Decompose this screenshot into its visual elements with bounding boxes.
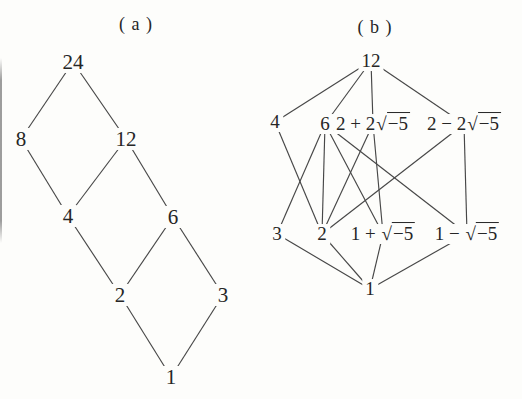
- scan-page-edge-artifact: [0, 58, 2, 243]
- scanned-figure-page: ( a ) 2481246231 ( b ) 12462 + 2√−52 − 2…: [0, 0, 522, 399]
- node-b-1mr: 1 − √−5: [432, 224, 502, 244]
- radical-sign: √: [375, 113, 386, 134]
- node-b-2: 2: [314, 224, 330, 244]
- node-b-12: 12: [359, 51, 384, 71]
- radicand: −5: [387, 112, 410, 134]
- node-b-3: 3: [269, 224, 285, 244]
- node-b-6: 6: [317, 114, 333, 134]
- figure-b-caption: ( b ): [358, 17, 393, 38]
- node-b-4: 4: [267, 112, 283, 132]
- radical-sign: √: [465, 223, 476, 244]
- node-b-1pr: 1 + √−5: [348, 224, 418, 244]
- radicand: −5: [476, 222, 499, 244]
- node-b-2m2r: 2 − 2√−5: [424, 114, 504, 134]
- radicand: −5: [478, 112, 501, 134]
- radical-sign: √: [466, 113, 477, 134]
- radical-sign: √: [381, 223, 392, 244]
- figure-b: ( b ) 12462 + 2√−52 − 2√−5321 + √−51 − √…: [0, 0, 522, 399]
- node-b-1: 1: [362, 279, 378, 299]
- node-b-2p2r: 2 + 2√−5: [333, 114, 413, 134]
- radicand: −5: [392, 222, 415, 244]
